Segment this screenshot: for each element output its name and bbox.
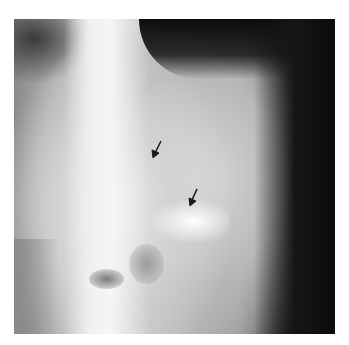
arrow-icon xyxy=(189,189,197,206)
radiograph-image xyxy=(14,19,335,334)
arrow-icon xyxy=(152,141,161,158)
arrow-overlay xyxy=(14,19,335,334)
